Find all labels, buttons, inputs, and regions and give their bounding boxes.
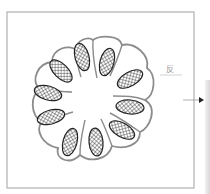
arrow-head-icon [199,97,204,103]
page-edge-strip [205,80,210,194]
reverse-side-label: 反 [166,63,174,74]
diagram-canvas [0,0,210,194]
